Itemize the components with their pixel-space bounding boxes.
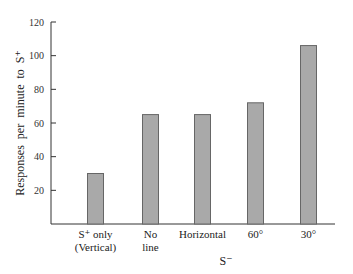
x-tick-label: line: [142, 241, 159, 253]
category-labels: S⁺ only(Vertical)NolineHorizontal60°30°: [75, 228, 316, 254]
bar-chart: 20406080100120 S⁺ only(Vertical)NolineHo…: [0, 0, 353, 274]
y-tick-label: 80: [34, 84, 44, 95]
y-axis: 20406080100120: [29, 17, 56, 225]
bar: [88, 174, 104, 225]
y-tick-label: 120: [29, 17, 44, 28]
x-axis-title: S⁻: [219, 254, 232, 268]
x-tick-label: S⁺ only: [78, 228, 113, 240]
y-tick-label: 40: [34, 151, 44, 162]
bar: [301, 46, 317, 224]
x-tick-label: No: [144, 228, 158, 240]
x-tick-label: (Vertical): [75, 241, 117, 254]
y-tick-label: 100: [29, 50, 44, 61]
bar: [248, 103, 264, 224]
x-tick-label: 30°: [301, 228, 316, 240]
x-tick-label: Horizontal: [179, 228, 226, 240]
bar: [143, 115, 159, 224]
y-axis-title: Responses per minute to S⁺: [13, 50, 27, 196]
y-tick-label: 20: [34, 185, 44, 196]
bars: [88, 46, 317, 224]
y-tick-label: 60: [34, 118, 44, 129]
x-tick-label: 60°: [248, 228, 263, 240]
bar: [195, 115, 211, 224]
